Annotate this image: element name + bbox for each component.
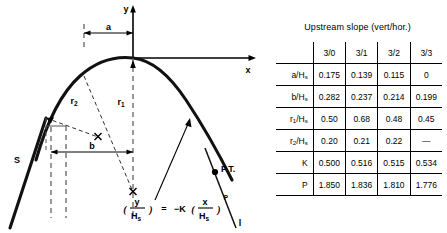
row-label-subscript: s <box>305 95 308 102</box>
downstream-slope-label: l <box>239 218 242 228</box>
cell-b-hs-3-2: 0.214 <box>378 86 410 108</box>
cell-b-hs-3-1: 0.237 <box>346 86 378 108</box>
cell-r1-hs-3-3: 0.45 <box>410 108 442 130</box>
table-corner-cell <box>276 42 313 64</box>
row-label-p: P <box>276 174 313 196</box>
tangent-point-label: P.T. <box>221 164 235 174</box>
table-row: a/Hs 0.175 0.139 0.115 0 <box>276 64 442 86</box>
dashed-guides <box>51 24 133 218</box>
cell-k-3-1: 0.516 <box>346 152 378 174</box>
row-label-tail: /H <box>296 136 305 146</box>
cell-r2-hs-3-1: 0.21 <box>346 130 378 152</box>
cell-r2-hs-3-0: 0.20 <box>313 130 345 152</box>
cell-r1-hs-3-1: 0.68 <box>346 108 378 130</box>
row-label-text: P <box>302 180 308 190</box>
cell-r1-hs-3-2: 0.48 <box>378 108 410 130</box>
cell-b-hs-3-0: 0.282 <box>313 86 345 108</box>
table-row: b/Hs 0.282 0.237 0.214 0.199 <box>276 86 442 108</box>
x-axis-label: x <box>245 65 250 75</box>
column-header-3-2: 3/2 <box>378 42 410 64</box>
equation-leader-arrow <box>155 118 192 200</box>
table-row: r1/Hs 0.50 0.68 0.48 0.45 <box>276 108 442 130</box>
table-row: P 1.850 1.836 1.810 1.776 <box>276 174 442 196</box>
equation-x-numerator: x <box>202 197 207 207</box>
row-label-k: K <box>276 152 313 174</box>
equation-exponent: P <box>224 194 229 201</box>
ogee-crest-curve <box>36 58 232 180</box>
diagram-canvas: a b <box>0 0 268 233</box>
row-label-text: K <box>302 158 308 168</box>
equation-numerator: y <box>134 197 139 207</box>
table-row: K 0.500 0.516 0.515 0.534 <box>276 152 442 174</box>
row-label-r1-hs: r1/Hs <box>276 108 313 130</box>
equation-equals: = <box>161 204 166 214</box>
coefficients-table-panel: Upstream slope (vert/hor.) 3/0 3/1 3/2 3… <box>268 0 447 233</box>
upstream-face-line <box>10 118 46 228</box>
y-axis <box>130 5 136 58</box>
table-header-row: 3/0 3/1 3/2 3/3 <box>276 42 442 64</box>
column-header-3-3: 3/3 <box>410 42 442 64</box>
radius-r2-label: r2 <box>70 96 78 107</box>
radius-r1-leader <box>84 76 137 195</box>
column-header-3-0: 3/0 <box>313 42 345 64</box>
cell-r2-hs-3-3: — <box>410 130 442 152</box>
row-label-text: a/H <box>291 70 304 80</box>
y-axis-label: y <box>123 4 128 14</box>
equation-close-paren: ) <box>148 204 152 216</box>
dimension-a: a <box>84 22 133 35</box>
table-caption: Upstream slope (vert/hor.) <box>268 22 447 32</box>
equation-denominator: Hs <box>131 211 142 222</box>
spillway-crest-diagram: a b <box>0 0 268 233</box>
cell-k-3-3: 0.534 <box>410 152 442 174</box>
equation-x-denominator: Hs <box>199 211 210 222</box>
row-label-subscript: s <box>305 117 308 124</box>
cell-a-hs-3-2: 0.115 <box>378 64 410 86</box>
cell-a-hs-3-1: 0.139 <box>346 64 378 86</box>
cell-k-3-2: 0.515 <box>378 152 410 174</box>
cell-r1-hs-3-0: 0.50 <box>313 108 345 130</box>
row-label-subscript: s <box>305 73 308 80</box>
equation-x-close-paren: ) <box>216 204 220 216</box>
tangent-point-marker: P.T. <box>212 164 235 175</box>
equation-open-paren: ( <box>123 204 127 216</box>
upstream-slope-table: 3/0 3/1 3/2 3/3 a/Hs 0.175 0.139 0.115 0 <box>276 42 442 196</box>
cell-a-hs-3-0: 0.175 <box>313 64 345 86</box>
column-header-3-1: 3/1 <box>346 42 378 64</box>
cell-r2-hs-3-2: 0.22 <box>378 130 410 152</box>
row-label-subscript: s <box>305 139 308 146</box>
row-label-b-hs: b/Hs <box>276 86 313 108</box>
cell-p-3-3: 1.776 <box>410 174 442 196</box>
table-row: r2/Hs 0.20 0.21 0.22 — <box>276 130 442 152</box>
dimension-b: b <box>51 141 133 154</box>
x-axis <box>133 55 256 61</box>
row-label-text: b/H <box>291 92 304 102</box>
cell-k-3-0: 0.500 <box>313 152 345 174</box>
equation-x-open-paren: ( <box>191 204 195 216</box>
cell-p-3-0: 1.850 <box>313 174 345 196</box>
equation-minus-k: −K <box>174 204 186 214</box>
cell-p-3-2: 1.810 <box>378 174 410 196</box>
figure-root: a b <box>0 0 447 233</box>
apex-arrow <box>130 60 136 68</box>
row-label-r2-hs: r2/Hs <box>276 130 313 152</box>
dimension-a-label: a <box>106 22 112 32</box>
dimension-b-label: b <box>89 141 95 151</box>
cell-b-hs-3-3: 0.199 <box>410 86 442 108</box>
crest-equation: ( y Hs ) = −K ( x Hs <box>123 194 229 222</box>
cell-p-3-1: 1.836 <box>346 174 378 196</box>
cell-a-hs-3-3: 0 <box>410 64 442 86</box>
radius-r1-label: r1 <box>117 97 125 108</box>
row-label-tail: /H <box>296 114 305 124</box>
upstream-face-label: S <box>14 155 20 165</box>
row-label-a-hs: a/Hs <box>276 64 313 86</box>
